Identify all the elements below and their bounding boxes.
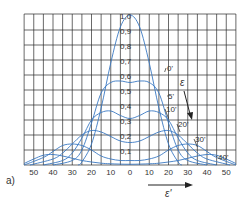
y-tick-label: 1,0 [120, 12, 132, 21]
x-tick-label: 10 [145, 168, 154, 177]
y-tick-label: 0,5 [120, 87, 132, 96]
x-tick-label: 50 [222, 168, 231, 177]
x-axis-label: ε' [165, 188, 172, 199]
chart-canvas: 0,10,20,30,40,50,60,70,80,91,0 504030201… [0, 0, 251, 208]
y-tick-label: 0,6 [120, 72, 132, 81]
y-tick-label: 0,2 [120, 132, 132, 141]
y-tick-label: 0,4 [120, 102, 132, 111]
annotation-label: 10' [166, 105, 177, 114]
x-tick-label: 20 [164, 168, 173, 177]
x-axis-arrow-head-icon [185, 182, 193, 188]
annotation-label: 40' [218, 153, 229, 162]
y-tick-label: 0,1 [120, 147, 132, 156]
x-tick-label: 30 [183, 168, 192, 177]
x-tick-label: 10 [106, 168, 115, 177]
annotation-leader [165, 68, 166, 72]
diffraction-chart: 0,10,20,30,40,50,60,70,80,91,0 504030201… [0, 0, 251, 208]
annotation-label: 0' [167, 64, 173, 73]
x-tick-label: 0 [128, 168, 133, 177]
annotation-label: 20' [178, 120, 189, 129]
x-tick-label: 30 [68, 168, 77, 177]
y-tick-label: 0,9 [120, 27, 132, 36]
x-tick-label: 50 [29, 168, 38, 177]
y-tick-label: 0,8 [120, 42, 132, 51]
annotation-label: 5' [168, 92, 174, 101]
param-epsilon-label: ε [180, 77, 185, 88]
y-tick-label: 0,3 [120, 117, 132, 126]
x-tick-label: 20 [87, 168, 96, 177]
param-arrow-line [184, 91, 190, 114]
x-tick-labels: 504030201001020304050 [29, 168, 231, 177]
x-tick-label: 40 [203, 168, 212, 177]
y-tick-label: 0,7 [120, 57, 132, 66]
annotation-label: 30' [195, 135, 206, 144]
panel-label: a) [6, 175, 15, 186]
x-tick-label: 40 [49, 168, 58, 177]
